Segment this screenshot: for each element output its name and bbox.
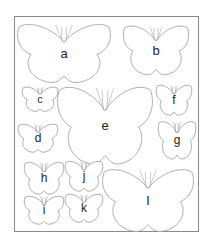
butterfly-label: j	[82, 169, 86, 183]
butterfly-label: a	[60, 46, 68, 61]
butterfly-label: i	[43, 203, 46, 217]
butterfly-f: f	[156, 85, 192, 115]
butterfly-b: b	[123, 26, 188, 75]
butterfly-l: l	[103, 170, 194, 232]
butterfly-label: l	[147, 193, 150, 208]
butterfly-i: i	[24, 196, 64, 224]
butterfly-label: c	[37, 93, 43, 105]
butterfly-h: h	[24, 162, 64, 194]
butterfly-label: d	[35, 131, 42, 145]
butterfly-d: d	[18, 124, 58, 152]
butterfly-e: e	[58, 87, 153, 164]
butterfly-label: h	[41, 171, 48, 185]
butterfly-a: a	[18, 24, 111, 82]
butterfly-k: k	[65, 194, 103, 222]
butterfly-j: j	[65, 161, 103, 191]
butterfly-label: g	[174, 133, 181, 147]
butterfly-label: k	[81, 201, 88, 215]
butterfly-g: g	[158, 122, 196, 159]
butterfly-label: e	[101, 118, 108, 133]
butterfly-sheet: abcdefghijkl	[0, 0, 211, 245]
butterfly-label: b	[152, 43, 159, 58]
butterfly-c: c	[22, 87, 58, 111]
